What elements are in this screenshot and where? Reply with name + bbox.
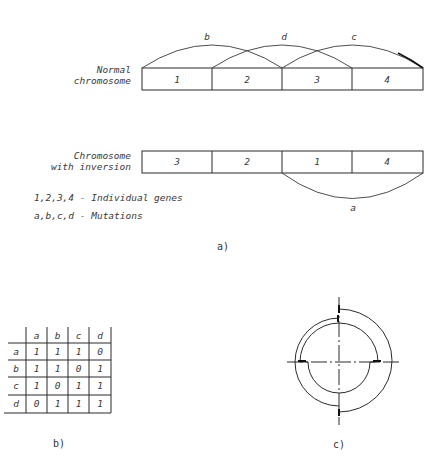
row-header: c xyxy=(13,380,19,391)
mutation-arc-d xyxy=(212,45,352,68)
inverted-chromosome-label-2: with inversion xyxy=(51,161,131,172)
legend-genes: 1,2,3,4 - Individual genes xyxy=(34,192,183,203)
normal-chromosome: 1 2 3 4 xyxy=(142,68,423,90)
gene-label: 2 xyxy=(244,156,250,167)
column-header: a xyxy=(34,330,40,341)
mutation-arc-a xyxy=(282,173,423,199)
cell: 1 xyxy=(97,363,103,374)
column-header: c xyxy=(76,330,82,341)
gene-label: 4 xyxy=(384,74,390,85)
cell: 0 xyxy=(76,363,82,374)
caption-b: b) xyxy=(53,438,65,449)
cell: 1 xyxy=(97,398,103,409)
caption-c: c) xyxy=(333,439,345,450)
normal-chromosome-label-2: chromosome xyxy=(74,75,131,86)
cell: 1 xyxy=(34,346,40,357)
gene-label: 3 xyxy=(173,156,180,167)
cell: 1 xyxy=(76,398,82,409)
arc-emphasis xyxy=(398,53,423,68)
arc-label-b: b xyxy=(204,31,210,42)
cell: 0 xyxy=(34,398,40,409)
gene-label: 1 xyxy=(314,156,320,167)
mutation-arc-b xyxy=(142,45,282,68)
cell: 1 xyxy=(76,346,82,357)
cell: 1 xyxy=(55,398,61,409)
panel-a: Normal chromosome 1 2 3 4 b d c Chromoso… xyxy=(34,31,423,252)
arc-label-a: a xyxy=(350,202,356,213)
cell: 0 xyxy=(55,380,61,391)
column-header: b xyxy=(55,330,61,341)
panel-c: c) xyxy=(287,297,401,450)
mutation-arc-c xyxy=(282,45,423,68)
cell: 1 xyxy=(34,380,40,391)
normal-chromosome-label-1: Normal xyxy=(96,64,131,75)
legend-mutations: a,b,c,d - Mutations xyxy=(34,210,143,221)
cell: 0 xyxy=(97,346,103,357)
gene-label: 2 xyxy=(244,74,250,85)
caption-a: a) xyxy=(217,241,229,252)
gene-label: 1 xyxy=(174,74,180,85)
row-header: d xyxy=(13,398,19,409)
inverted-chromosome: 3 2 1 4 xyxy=(142,151,423,173)
row-header: b xyxy=(13,363,19,374)
column-header: d xyxy=(97,330,103,341)
panel-b: a b c d a 1 1 1 0 b 1 1 0 1 c 1 0 1 1 xyxy=(4,327,111,449)
cell: 1 xyxy=(55,363,61,374)
row-header: a xyxy=(13,346,19,357)
arc-label-d: d xyxy=(281,31,287,42)
cell: 1 xyxy=(34,363,40,374)
cell: 1 xyxy=(55,346,61,357)
outer-arc-right xyxy=(339,309,392,412)
cell: 1 xyxy=(76,380,82,391)
figure: Normal chromosome 1 2 3 4 b d c Chromoso… xyxy=(0,0,442,466)
arc-label-c: c xyxy=(351,31,357,42)
gene-label: 4 xyxy=(384,156,390,167)
gene-label: 3 xyxy=(313,74,320,85)
inverted-chromosome-label-1: Chromosome xyxy=(74,150,131,161)
cell: 1 xyxy=(97,380,103,391)
table-row: a 1 1 1 0 xyxy=(13,346,103,357)
